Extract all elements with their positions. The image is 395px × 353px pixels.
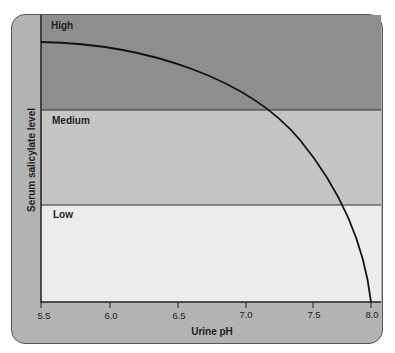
label-low: Low	[53, 209, 73, 220]
y-axis-title: Serum salicylate level	[26, 108, 37, 212]
band-low	[41, 205, 381, 302]
chart-svg: High Medium Low 5.5 6.0 6.5 7.0 7.5 8.0 …	[0, 0, 395, 353]
tick-label: 8.0	[365, 309, 378, 320]
tick-label: 7.0	[239, 309, 252, 320]
tick-label: 7.5	[307, 309, 320, 320]
band-high	[41, 15, 381, 110]
tick-label: 6.5	[172, 310, 185, 321]
band-medium	[41, 110, 381, 205]
tick-label: 5.5	[37, 310, 50, 321]
tick-label: 6.0	[104, 310, 117, 321]
x-axis-title: Urine pH	[191, 326, 233, 337]
label-medium: Medium	[52, 115, 90, 126]
label-high: High	[51, 20, 73, 31]
